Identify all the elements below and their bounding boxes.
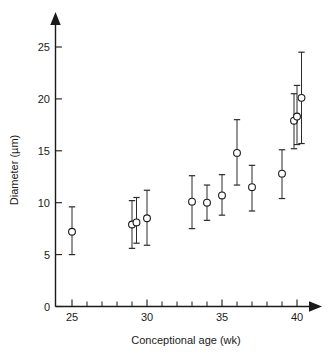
data-point	[204, 185, 211, 220]
data-point	[144, 190, 151, 245]
data-point	[133, 198, 140, 244]
data-marker	[144, 215, 151, 222]
data-marker	[249, 184, 256, 191]
data-point	[234, 120, 241, 185]
x-tick-label-35: 35	[216, 311, 228, 323]
data-point	[279, 150, 286, 199]
data-marker	[204, 199, 211, 206]
y-axis-title: Diameter (µm)	[8, 135, 20, 206]
y-tick-label-5: 5	[44, 249, 50, 261]
x-tick-label-25: 25	[66, 311, 78, 323]
y-axis-ticks	[56, 47, 63, 307]
x-tick-label-40: 40	[291, 311, 303, 323]
data-point	[249, 165, 256, 211]
data-point	[69, 207, 76, 255]
data-point	[189, 176, 196, 229]
data-marker	[69, 228, 76, 235]
data-marker	[294, 113, 301, 120]
y-tick-label-15: 15	[38, 145, 50, 157]
data-point	[219, 175, 226, 215]
y-tick-label-0: 0	[44, 301, 50, 313]
axes-group	[50, 12, 322, 312]
data-marker	[189, 198, 196, 205]
data-point	[291, 94, 298, 149]
y-tick-label-25: 25	[38, 41, 50, 53]
data-marker	[219, 192, 226, 199]
chart-figure: 0510152025 25303540 Conceptional age (wk…	[0, 0, 331, 354]
x-axis-ticks	[72, 300, 297, 307]
x-tick-label-30: 30	[141, 311, 153, 323]
y-axis-tick-labels: 0510152025	[38, 41, 50, 313]
data-marker	[234, 149, 241, 156]
x-axis-tick-labels: 25303540	[66, 311, 303, 323]
y-tick-label-10: 10	[38, 197, 50, 209]
y-axis-arrow-icon	[50, 12, 60, 25]
x-axis-title: Conceptional age (wk)	[131, 334, 240, 346]
y-tick-label-20: 20	[38, 93, 50, 105]
data-marker	[298, 94, 305, 101]
data-marker	[279, 170, 286, 177]
data-marker	[133, 219, 140, 226]
data-point	[298, 52, 305, 143]
data-points-layer	[69, 52, 305, 254]
scatter-plot: 0510152025 25303540 Conceptional age (wk…	[0, 0, 331, 354]
x-axis-arrow-icon	[309, 301, 322, 311]
